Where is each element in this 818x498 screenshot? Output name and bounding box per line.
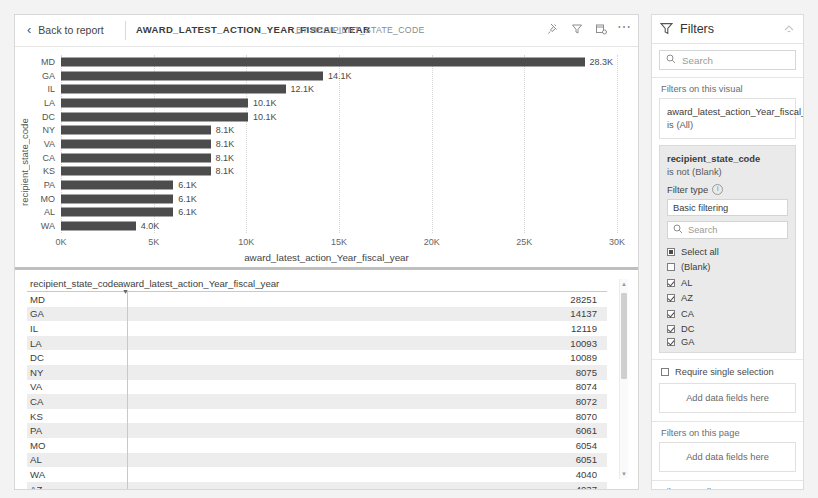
filter-values-search-input[interactable]: Search [667,221,788,239]
filter-value-checkbox[interactable] [667,325,675,333]
chart-bar[interactable] [61,126,211,135]
table-scrollbar[interactable]: ▲ ▼ [619,279,628,479]
chart-category-label: CA [42,153,55,163]
chart-bar-row[interactable]: IL12.1K [61,82,617,96]
table-cell-state: WA [27,469,115,480]
dropzone-visual-filters[interactable]: Add data fields here [659,383,796,413]
table-row[interactable]: KS8070 [27,409,607,424]
column-header-state[interactable]: recipient_state_code [27,278,118,289]
chart-bar[interactable] [61,167,211,176]
filter-value-item[interactable]: (Blank) [667,260,788,276]
filter-type-select[interactable]: Basic filtering [667,199,788,216]
table-cell-value: 8074 [115,381,607,392]
chart-bar-row[interactable]: CA8.1K [61,151,617,165]
chart-bar[interactable] [61,139,211,148]
chart-bar-row[interactable]: KS8.1K [61,165,617,179]
table-cell-value: 8070 [115,411,607,422]
filter-value-item[interactable]: GA [667,337,788,346]
filters-search-input[interactable]: Search [659,50,796,70]
filter-value-item[interactable]: CA [667,306,788,322]
chart-bar[interactable] [61,85,286,94]
table-row[interactable]: DC10089 [27,350,607,365]
back-to-report-button[interactable]: ‹ Back to report [27,23,104,36]
dropzone-label: Add data fields here [686,452,769,462]
chart-bar-row[interactable]: AL6.1K [61,206,617,220]
filter-card-award-year[interactable]: award_latest_action_Year_fiscal_year is … [659,98,796,139]
table-cell-state: LA [27,338,115,349]
chart-bar[interactable] [61,194,173,203]
chart-bar-row[interactable]: GA14.1K [61,69,617,83]
table-row[interactable]: VA8074 [27,380,607,395]
filter-value-item[interactable]: Select all [667,244,788,260]
pin-icon[interactable] [545,21,560,36]
filter-value-checkbox[interactable] [667,279,675,287]
table-row[interactable]: NY8075 [27,365,607,380]
table-row[interactable]: AL6051 [27,453,607,468]
filter-value-label: AL [681,278,692,288]
data-table: recipient_state_code award_latest_action… [27,278,607,489]
dropzone-page-filters[interactable]: Add data fields here [659,442,796,472]
chart-plot-area[interactable]: MD28.3KGA14.1KIL12.1KLA10.1KDC10.1KNY8.1… [61,55,617,233]
section-label-page: Filters on this page [652,422,803,442]
chart-bar[interactable] [61,153,211,162]
table-row[interactable]: AZ4037 [27,482,607,489]
filter-type-label: Filter type [667,184,708,195]
focus-mode-icon[interactable] [593,21,608,36]
scroll-down-arrow-icon[interactable]: ▼ [621,471,627,477]
chart-bar-row[interactable]: DC10.1K [61,110,617,124]
table-cell-state: MO [27,440,115,451]
table-row[interactable]: PA6061 [27,423,607,438]
table-cell-value: 14137 [115,308,607,319]
search-icon [673,224,683,236]
filter-value-checkbox[interactable] [667,248,675,256]
collapse-pane-icon[interactable] [783,23,795,37]
filter-value-item[interactable]: AL [667,275,788,291]
chart-bar-row[interactable]: MD28.3K [61,55,617,69]
filter-value-checkbox[interactable] [667,338,675,346]
filter-value-checkbox[interactable] [667,310,675,318]
chart-category-label: NY [42,125,55,135]
back-to-report-label: Back to report [38,24,103,36]
table-row[interactable]: MO6054 [27,438,607,453]
chart-bar[interactable] [61,112,248,121]
filter-card-recipient-state[interactable]: recipient_state_code is not (Blank) Filt… [659,145,796,353]
require-single-selection-row[interactable]: Require single selection [652,359,803,383]
chart-bar-row[interactable]: WA4.0K [61,219,617,233]
chart-bar[interactable] [61,98,248,107]
filter-icon[interactable] [569,21,584,36]
table-row[interactable]: CA8072 [27,394,607,409]
filter-value-item[interactable]: DC [667,322,788,338]
chart-bar[interactable] [61,71,323,80]
table-row[interactable]: MD28251 [27,292,607,307]
chart-category-label: VA [44,139,55,149]
table-row[interactable]: WA4040 [27,467,607,482]
table-row[interactable]: IL12119 [27,321,607,336]
filters-pane: Filters Search Filters on this visual aw… [651,14,804,490]
chart-bar[interactable] [61,222,136,231]
chart-bar[interactable] [61,181,173,190]
table-scrollbar-thumb[interactable] [621,293,627,379]
column-header-value[interactable]: award_latest_action_Year_fiscal_year [118,278,607,289]
chart-bar-row[interactable]: PA6.1K [61,178,617,192]
info-icon[interactable]: i [712,184,723,195]
chart-bar[interactable] [61,208,173,217]
chart-bar-row[interactable]: VA8.1K [61,137,617,151]
more-options-icon[interactable]: ⋯ [617,23,631,35]
chart-data-label: 6.1K [178,194,197,204]
filters-pane-header: Filters [652,15,803,43]
filter-value-checkbox[interactable] [667,294,675,302]
table-row[interactable]: GA14137 [27,307,607,322]
chart-bar-row[interactable]: NY8.1K [61,123,617,137]
require-single-selection-checkbox[interactable] [661,368,669,376]
chart-data-label: 12.1K [291,84,315,94]
scroll-up-arrow-icon[interactable]: ▲ [621,281,627,287]
chart-data-label: 8.1K [216,139,235,149]
chart-bar[interactable] [61,57,585,66]
table-header-row: recipient_state_code award_latest_action… [27,278,607,292]
chart-bar-row[interactable]: MO6.1K [61,192,617,206]
table-row[interactable]: LA10093 [27,336,607,351]
filter-value-item[interactable]: AZ [667,291,788,307]
filter-value-checkbox[interactable] [667,263,675,271]
chart-bar-row[interactable]: LA10.1K [61,96,617,110]
filter-value-label: GA [681,337,694,346]
